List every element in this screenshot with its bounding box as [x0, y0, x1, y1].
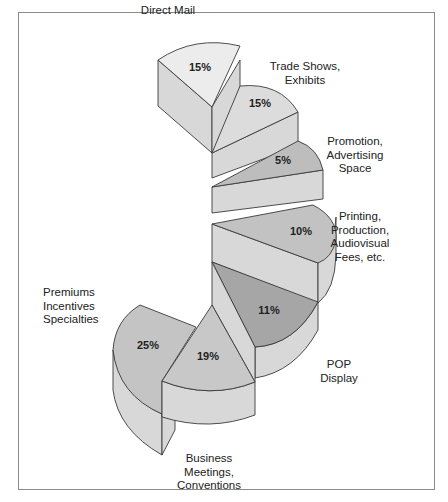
- slice-category-label: PremiumsIncentivesSpecialties: [43, 286, 99, 325]
- label-line: Space: [339, 162, 372, 174]
- label-line: Meetings,: [184, 466, 234, 478]
- label-line: Advertising: [327, 149, 384, 161]
- spiral-pie-chart: 15%15%5%10%11%19%25% Direct MailTrade Sh…: [0, 0, 448, 502]
- data-label: 5%: [275, 154, 291, 166]
- slice-category-label: BusinessMeetings,Conventions: [177, 452, 241, 491]
- label-line: Incentives: [43, 300, 95, 312]
- label-line: Business: [186, 452, 233, 464]
- label-line: Promotion,: [327, 135, 383, 147]
- label-line: Display: [320, 372, 358, 384]
- slice-category-label: Printing,Production,AudiovisualFees, etc…: [331, 210, 390, 263]
- label-line: Exhibits: [285, 74, 326, 86]
- label-line: POP: [327, 358, 352, 370]
- label-line: Direct Mail: [141, 4, 195, 16]
- label-line: Specialties: [43, 313, 99, 325]
- data-label: 25%: [137, 339, 159, 351]
- data-label: 19%: [197, 350, 219, 362]
- slice-category-label: Promotion,AdvertisingSpace: [327, 135, 384, 174]
- data-label: 15%: [189, 61, 211, 73]
- label-line: Conventions: [177, 479, 241, 491]
- label-line: Premiums: [43, 286, 95, 298]
- label-line: Audiovisual: [331, 237, 390, 249]
- data-label: 11%: [258, 304, 280, 316]
- data-label: 10%: [290, 225, 312, 237]
- label-line: Printing,: [339, 210, 381, 222]
- label-line: Production,: [331, 224, 389, 236]
- label-line: Fees, etc.: [335, 251, 386, 263]
- slice-category-label: Trade Shows,Exhibits: [270, 60, 341, 86]
- label-line: Trade Shows,: [270, 60, 341, 72]
- data-label: 15%: [249, 97, 271, 109]
- slice-category-label: POPDisplay: [320, 358, 358, 384]
- slice-category-label: Direct Mail: [141, 4, 195, 16]
